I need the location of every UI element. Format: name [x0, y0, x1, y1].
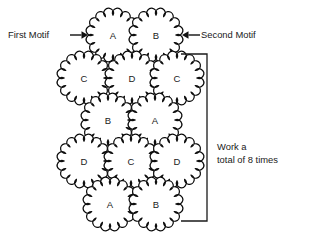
first-motif-arrow [70, 31, 88, 39]
second-motif-arrow [182, 31, 200, 39]
motif-letter: B [153, 30, 160, 41]
motif-letter: C [127, 156, 134, 167]
work-repeat-note-line2: total of 8 times [217, 154, 278, 167]
motif-letter: A [110, 30, 117, 41]
motif-letter: C [80, 73, 87, 84]
diagram-canvas: ABCDCBADCDAB First Motif Second Motif Wo… [0, 0, 314, 232]
motif-letter: C [173, 73, 180, 84]
work-repeat-note: Work a total of 8 times [217, 141, 278, 166]
motif-letter: A [107, 199, 114, 210]
motif-letter: D [128, 73, 135, 84]
motif-letter: D [173, 156, 180, 167]
motifs-layer: ABCDCBADCDAB [57, 8, 203, 230]
second-motif-label: Second Motif [201, 29, 256, 41]
motif-letter: B [153, 199, 160, 210]
first-motif-label: First Motif [8, 29, 49, 41]
motif-letter: A [152, 115, 159, 126]
work-repeat-note-line1: Work a [217, 141, 278, 154]
motif-letter: B [105, 115, 112, 126]
motif-letter: D [80, 156, 87, 167]
